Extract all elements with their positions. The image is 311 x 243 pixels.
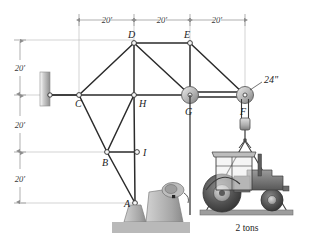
joint-B [105,150,110,155]
joint-label-E: E [183,29,190,40]
member-B-H [107,95,134,152]
dimension-extension-lines [20,18,245,203]
crane-truss-svg: 20' 20' 20' 20' 20' 20' [0,0,311,243]
wall-pin-joint [48,93,52,97]
joint-D [132,41,137,46]
joint-label-H: H [138,98,147,109]
figure-canvas: 20' 20' 20' 20' 20' 20' [0,0,311,243]
joint-label-D: D [127,29,136,40]
member-H-I-A [134,95,135,203]
winch-cable [184,193,189,203]
joint-label-G: G [185,106,192,117]
wall-support [40,72,79,106]
dimension-left-2: 20' [15,120,26,130]
joint-label-B: B [102,157,108,168]
load-caption: 2 tons [236,223,259,233]
tractor-load [200,141,293,215]
base-ground-slab [112,222,190,233]
member-C-D [79,43,134,95]
dimension-top-2: 20' [157,15,168,25]
joint-label-C: C [75,98,82,109]
joint-H [132,93,137,98]
joint-label-F: F [239,106,247,117]
tractor-cab [216,155,252,190]
dimension-top-3: 20' [212,15,223,25]
joint-label-I: I [142,147,147,158]
pulley-diameter-label: 24" [264,74,279,85]
tractor-exhaust [258,154,262,176]
joint-C [77,93,82,98]
winch-bolt [172,195,175,198]
joint-I [135,150,140,155]
dimension-top-1: 20' [102,15,113,25]
hook-block [240,118,250,130]
member-E-F [190,43,245,95]
dimension-left-3: 20' [15,174,26,184]
member-D-G [134,43,190,95]
member-B-A [107,152,135,203]
load-platform [200,210,293,215]
tractor-roof [212,152,256,157]
dimension-left-1: 20' [15,63,26,73]
member-C-B [79,95,107,152]
joint-label-A: A [123,198,131,209]
joint-E [188,41,193,46]
pulley-diameter-leader [250,82,262,90]
